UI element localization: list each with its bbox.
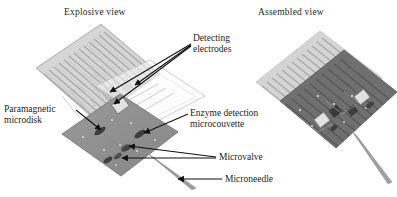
label-detecting-electrodes-line1: Detecting [193, 33, 232, 44]
view-title-explosive: Explosive view [64, 7, 126, 17]
arrows-detecting-electrodes [110, 44, 191, 104]
label-detecting-electrodes-line2: electrodes [193, 44, 232, 55]
view-title-assembled: Assembled view [258, 7, 324, 17]
label-microneedle: Microneedle [225, 174, 273, 185]
arrows-microvalve [122, 146, 216, 158]
label-microneedle-line1: Microneedle [225, 174, 273, 185]
label-microvalve-line1: Microvalve [219, 152, 263, 163]
arrow-paramagnetic-microdisk [76, 110, 101, 130]
arrow-enzyme-microcouvette [144, 114, 188, 133]
label-paramagnetic-microdisk-line2: microdisk [4, 115, 56, 126]
callout-arrows [0, 0, 397, 197]
label-detecting-electrodes: Detecting electrodes [193, 33, 232, 55]
label-microvalve: Microvalve [219, 152, 263, 163]
label-enzyme-microcouvette-line2: microcouvette [190, 119, 258, 130]
label-enzyme-microcouvette-line1: Enzyme detection [190, 108, 258, 119]
label-paramagnetic-microdisk: Paramagnetic microdisk [4, 104, 56, 126]
label-enzyme-microcouvette: Enzyme detection microcouvette [190, 108, 258, 130]
figure-root: Explosive view Assembled view Detecting … [0, 0, 397, 197]
label-paramagnetic-microdisk-line1: Paramagnetic [4, 104, 56, 115]
